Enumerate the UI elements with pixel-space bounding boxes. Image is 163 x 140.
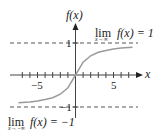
lim-lower-sub: x→−∞: [8, 125, 25, 131]
annotation-limit-upper: lim f(x) = 1 x→∞: [95, 23, 154, 41]
lim-upper-expr: f(x) = 1: [117, 26, 154, 40]
x-axis-arrow-icon: [136, 72, 143, 78]
y-tick-label-1: 1: [66, 38, 72, 49]
tick-label-pos5: 5: [111, 80, 117, 91]
x-axis-label: x: [145, 68, 150, 80]
lim-upper-sub: x→∞: [95, 36, 108, 42]
y-axis-label: f(x): [66, 9, 83, 21]
tick-label-neg5: −5: [31, 80, 43, 91]
annotation-limit-lower: lim f(x) = −1 x→−∞: [8, 112, 75, 130]
lim-lower-expr: f(x) = −1: [30, 115, 75, 129]
y-axis-arrow-icon: [73, 23, 79, 30]
